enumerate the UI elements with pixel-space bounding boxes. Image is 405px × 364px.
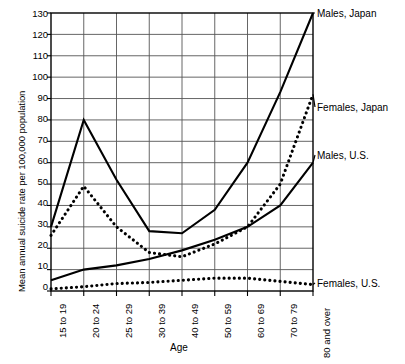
suicide-rate-line-chart: Mean annual suicide rate per 100,000 pop…	[0, 0, 405, 364]
series-label-males-japan: Males, Japan	[317, 8, 376, 19]
series-label-males-us: Males, U.S.	[317, 150, 369, 161]
series-label-females-us: Females, U.S.	[317, 278, 380, 289]
series-label-females-japan: Females, Japan	[317, 102, 388, 113]
plot-area	[0, 0, 405, 364]
